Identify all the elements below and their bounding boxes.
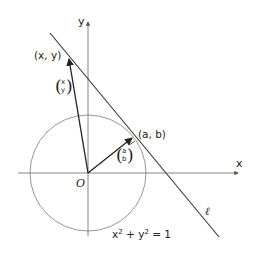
unit-circle-tangent-diagram: y x O (x, y) (a, b) ( x y ) ( a b ) ℓ x2… [0,0,255,259]
x-axis-label: x [236,157,243,170]
tangent-vector-top: a [122,147,126,155]
y-axis-label: y [78,15,85,28]
outer-vector-right-paren: ) [66,76,73,96]
outer-vector-bottom: y [61,86,65,94]
tangent-vector-right-paren: ) [127,145,134,165]
line-label: ℓ [205,205,210,218]
outer-vector-top: x [61,78,65,86]
outer-point-label: (x, y) [34,49,61,61]
tangent-vector-label: ( a b ) [116,145,134,165]
outer-vector-label: ( x y ) [55,76,73,96]
circle-equation: x2 + y2 = 1 [112,228,171,240]
origin-label: O [76,177,85,190]
tangent-line [50,33,219,237]
tangent-point-label: (a, b) [138,128,166,140]
